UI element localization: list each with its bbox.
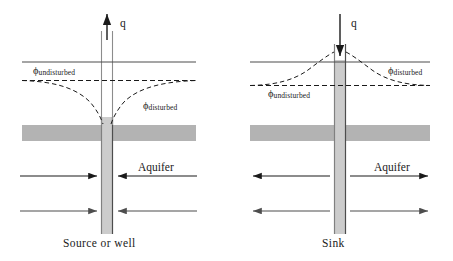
phi-subscript-right-disturbed: disturbed bbox=[394, 68, 423, 77]
mound-curve-right-a bbox=[250, 52, 334, 86]
phi-subscript-left-undisturbed: undisturbed bbox=[39, 68, 76, 77]
aquifer-label-left: Aquifer bbox=[138, 162, 174, 174]
caption-right: Sink bbox=[322, 238, 345, 250]
well-column-right bbox=[334, 60, 346, 234]
undisturbed-head-label-right: ϕundisturbed bbox=[268, 89, 310, 100]
phi-subscript-left-disturbed: disturbed bbox=[149, 103, 178, 112]
well-column-left bbox=[101, 117, 113, 234]
disturbed-head-label-right: ϕdisturbed bbox=[388, 66, 422, 77]
aquifer-label-right: Aquifer bbox=[374, 162, 410, 174]
flux-label-right: q bbox=[351, 18, 357, 30]
undisturbed-head-label-left: ϕundisturbed bbox=[33, 66, 75, 77]
caption-left: Source or well bbox=[63, 238, 136, 250]
flux-label-left: q bbox=[120, 18, 126, 30]
schematic-svg bbox=[0, 0, 453, 261]
phi-subscript-right-undisturbed: undisturbed bbox=[274, 91, 311, 100]
drawdown-curve-left-a bbox=[22, 81, 103, 125]
disturbed-head-label-left: ϕdisturbed bbox=[143, 101, 177, 112]
figure-container: q ϕundisturbed ϕdisturbed Aquifer Source… bbox=[0, 0, 453, 261]
